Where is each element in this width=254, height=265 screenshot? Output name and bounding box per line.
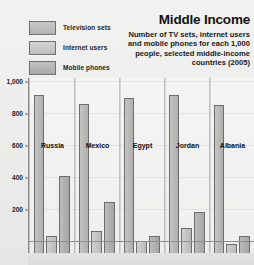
bar-mobile-phones-albania [239,236,250,253]
legend-item-television-sets: Television sets [29,19,125,36]
chart-legend: Television sets Internet users Mobile ph… [29,19,125,79]
country-label-mexico: Mexico [75,142,120,149]
x-axis-baseline [28,241,254,242]
bar-mobile-phones-mexico [104,202,115,253]
country-label-albania: Albania [210,142,254,149]
y-axis-tick: 200 [0,206,28,213]
country-label-russia: Russia [30,142,75,149]
bar-group: Egypt [119,78,166,253]
y-axis: 1,000 800 600 400 200 [0,78,28,265]
country-label-jordan: Jordan [165,142,210,149]
bar-group: Albania [209,78,254,253]
y-axis-tick: 400 [0,174,28,181]
chart-figure: Television sets Internet users Mobile ph… [0,0,254,265]
chart-title: Middle Income [126,12,250,27]
bar-group: Mexico [74,78,121,253]
bar-internet-users-albania [226,244,237,253]
chart-subtitle: Number of TV sets, internet users and mo… [126,30,250,68]
legend-swatch-icon [29,21,56,35]
legend-swatch-icon [29,41,56,55]
bar-television-sets-jordan [169,95,180,253]
legend-item-mobile-phones: Mobile phones [29,59,125,76]
legend-label: Television sets [63,24,111,31]
country-label-egypt: Egypt [120,142,165,149]
legend-item-internet-users: Internet users [29,39,125,56]
bar-internet-users-egypt [136,241,147,253]
plot-canvas: RussiaMexicoEgyptJordanAlbania [28,78,254,265]
bar-group-inner [75,78,120,253]
bar-mobile-phones-egypt [149,236,160,253]
chart-plot-area: 1,000 800 600 400 200 RussiaMexicoEgyptJ… [0,78,254,265]
chart-title-block: Middle Income Number of TV sets, interne… [126,12,250,68]
bar-television-sets-albania [214,105,225,253]
y-axis-tick: 800 [0,110,28,117]
bar-television-sets-mexico [79,104,90,253]
bar-group: Russia [29,78,76,253]
plot-floor [28,253,254,265]
bar-television-sets-russia [34,95,45,253]
bar-group-inner [120,78,165,253]
bar-group-inner [30,78,75,253]
y-axis-tick: 1,000 [0,78,28,85]
bar-television-sets-egypt [124,98,135,253]
legend-label: Mobile phones [63,64,110,71]
y-axis-tick: 600 [0,142,28,149]
bar-groups: RussiaMexicoEgyptJordanAlbania [29,78,254,265]
bar-group-inner [165,78,210,253]
bar-mobile-phones-jordan [194,212,205,253]
bar-group-inner [210,78,254,253]
legend-swatch-icon [29,61,56,75]
chart-header: Television sets Internet users Mobile ph… [0,0,254,78]
bar-internet-users-russia [46,236,57,253]
legend-label: Internet users [63,44,107,51]
bar-group: Jordan [164,78,211,253]
